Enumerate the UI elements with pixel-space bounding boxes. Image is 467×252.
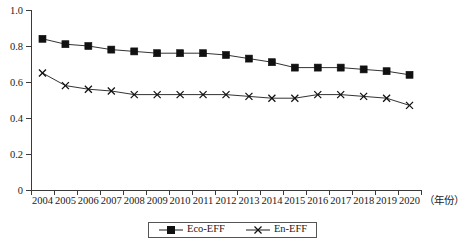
x-axis-tick-label: 2014 (261, 196, 282, 207)
series-en-eff (39, 70, 413, 109)
data-point-marker (291, 95, 298, 102)
series-line (42, 39, 409, 75)
data-point-marker (62, 41, 69, 48)
y-axis-tick-label: 0.8 (10, 41, 23, 52)
data-point-marker (360, 93, 367, 100)
legend-marker-filled-square-icon (158, 224, 184, 236)
data-point-marker (314, 91, 321, 98)
x-axis-tick-label: 2017 (330, 196, 351, 207)
data-point-marker (108, 88, 115, 95)
data-point-marker (177, 91, 184, 98)
x-axis-tick-label: 2009 (147, 196, 168, 207)
data-point-marker (62, 82, 69, 89)
y-axis-tick-label: 0.2 (10, 149, 23, 160)
data-point-marker (108, 46, 115, 53)
legend-item-en-eff: En-EFF (245, 224, 307, 236)
data-point-marker (177, 91, 184, 98)
data-point-marker (337, 91, 344, 98)
x-axis-tick-label: 2005 (55, 196, 76, 207)
chart-legend: Eco-EFF En-EFF (148, 222, 317, 238)
x-axis-tick-label: 2008 (124, 196, 145, 207)
data-point-marker (154, 91, 161, 98)
data-point-marker (245, 93, 252, 100)
data-point-marker (223, 91, 230, 98)
data-point-marker (85, 86, 92, 93)
data-point-marker (223, 52, 230, 59)
data-point-marker (360, 66, 367, 73)
x-axis-tick (421, 191, 422, 195)
data-point-marker (406, 102, 413, 109)
data-point-marker (200, 91, 207, 98)
y-axis-tick: 0.6 (26, 82, 31, 83)
data-point-marker (200, 91, 207, 98)
data-point-marker (291, 64, 298, 71)
data-point-marker (314, 64, 321, 71)
x-axis-tick-label: 2016 (307, 196, 328, 207)
x-axis-tick-label: 2018 (353, 196, 374, 207)
y-axis-tick: 0.2 (26, 154, 31, 155)
x-axis-tick-label: 2004 (32, 196, 53, 207)
x-axis-tick-label: 2006 (78, 196, 99, 207)
data-point-marker (108, 88, 115, 95)
x-axis-tick-label: 2020 (399, 196, 420, 207)
data-point-marker (337, 91, 344, 98)
data-point-marker (337, 64, 344, 71)
series-eco-eff (39, 35, 413, 78)
legend-label-eco-eff: Eco-EFF (187, 224, 225, 235)
data-point-marker (383, 95, 390, 102)
y-axis-tick: 0.4 (26, 118, 31, 119)
data-point-marker (360, 93, 367, 100)
data-point-marker (268, 59, 275, 66)
line-chart: 1.00.80.60.40.20 20042005200620072008200… (0, 0, 467, 252)
data-point-marker (62, 82, 69, 89)
data-point-marker (268, 95, 275, 102)
y-axis-tick: 1.0 (26, 10, 31, 11)
data-point-marker (406, 71, 413, 78)
y-axis-tick: 0.8 (26, 46, 31, 47)
x-axis-tick-label: 2013 (238, 196, 259, 207)
data-point-marker (154, 50, 161, 57)
data-point-marker (223, 91, 230, 98)
data-point-marker (383, 68, 390, 75)
series-line (42, 73, 409, 105)
data-point-marker (85, 43, 92, 50)
data-point-marker (39, 70, 46, 77)
y-axis-tick-label: 1.0 (10, 5, 23, 16)
series-layer (0, 0, 467, 252)
data-point-marker (39, 35, 46, 42)
data-point-marker (131, 91, 138, 98)
data-point-marker (314, 91, 321, 98)
legend-label-en-eff: En-EFF (274, 224, 307, 235)
data-point-marker (85, 86, 92, 93)
x-axis-tick-label: 2012 (216, 196, 237, 207)
data-point-marker (383, 95, 390, 102)
data-point-marker (268, 95, 275, 102)
x-axis-tick-label: 2007 (101, 196, 122, 207)
x-axis-tick-label: 2010 (170, 196, 191, 207)
legend-marker-cross-icon (245, 224, 271, 236)
y-axis-tick-label: 0.6 (10, 77, 23, 88)
y-axis-tick-label: 0 (18, 185, 23, 196)
data-point-marker (200, 50, 207, 57)
data-point-marker (245, 93, 252, 100)
legend-item-eco-eff: Eco-EFF (158, 224, 225, 236)
x-axis-line (31, 190, 422, 191)
data-point-marker (291, 95, 298, 102)
data-point-marker (406, 102, 413, 109)
x-axis-tick-label: 2019 (376, 196, 397, 207)
data-point-marker (39, 70, 46, 77)
data-point-marker (131, 91, 138, 98)
data-point-marker (177, 50, 184, 57)
data-point-marker (154, 91, 161, 98)
data-point-marker (131, 48, 138, 55)
y-axis-line (31, 10, 32, 191)
x-axis-tick-label: 2015 (284, 196, 305, 207)
y-axis-tick-label: 0.4 (10, 113, 23, 124)
x-axis-tick-label: 2011 (193, 196, 214, 207)
x-axis-title: （年份） (424, 196, 464, 207)
data-point-marker (245, 55, 252, 62)
